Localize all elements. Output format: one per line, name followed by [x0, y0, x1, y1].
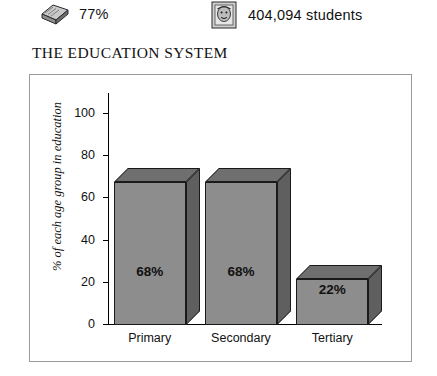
- x-axis-category-label: Secondary: [205, 331, 277, 345]
- y-axis-tick-label: 80: [81, 148, 95, 162]
- face-icon: [209, 0, 239, 30]
- plot-wrapper: % of each age group in education 0204060…: [30, 75, 413, 363]
- y-axis-line: [108, 93, 109, 325]
- y-axis-tick-label: 20: [81, 275, 95, 289]
- y-axis-tick: 40: [103, 240, 108, 241]
- stat-item-literacy: 77%: [40, 1, 109, 27]
- x-axis-category-label: Tertiary: [296, 331, 368, 345]
- section-title: THE EDUCATION SYSTEM: [32, 44, 228, 62]
- y-axis-tick: 0: [103, 324, 108, 325]
- y-axis-tick-label: 0: [88, 317, 95, 331]
- bar-value-label: 22%: [296, 282, 368, 297]
- education-bar-chart: % of each age group in education 0204060…: [29, 74, 412, 362]
- bar: 68%Primary: [114, 182, 186, 325]
- y-axis-tick-label: 100: [74, 106, 95, 120]
- y-axis-tick-label: 40: [81, 233, 95, 247]
- y-axis-tick: 60: [103, 197, 108, 198]
- y-axis-label: % of each age group in education: [50, 92, 65, 282]
- y-axis-tick-label: 60: [81, 190, 95, 204]
- stat-value-literacy: 77%: [79, 6, 109, 22]
- book-icon: [40, 1, 70, 27]
- y-axis-tick: 20: [103, 282, 108, 283]
- bar-side-face: [277, 168, 291, 325]
- bar-value-label: 68%: [205, 264, 277, 279]
- y-axis-tick: 80: [103, 155, 108, 156]
- bar-value-label: 68%: [114, 264, 186, 279]
- stat-value-students: 404,094 students: [248, 7, 362, 23]
- bar: 68%Secondary: [205, 182, 277, 325]
- y-axis-tick: 100: [103, 113, 108, 114]
- bar-side-face: [186, 168, 200, 325]
- plot-area: 02040608010068%Primary68%Secondary22%Ter…: [108, 93, 382, 325]
- x-axis-category-label: Primary: [114, 331, 186, 345]
- bar: 22%Tertiary: [296, 279, 368, 325]
- stats-row: 77% 404,094 students: [0, 0, 437, 34]
- bar-front-face: [205, 182, 277, 325]
- stat-item-students: 404,094 students: [209, 0, 362, 30]
- bar-front-face: [114, 182, 186, 325]
